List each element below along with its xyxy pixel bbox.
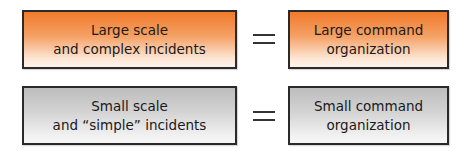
large-incidents-box: Large scale and complex incidents [22, 10, 237, 69]
equals-icon [253, 109, 275, 123]
equals-icon [253, 32, 275, 46]
small-command-line2: organization [327, 116, 411, 135]
large-command-line1: Large command [314, 21, 424, 40]
small-command-line1: Small command [314, 97, 423, 116]
large-command-box: Large command organization [288, 10, 449, 69]
large-incidents-line1: Large scale [91, 21, 168, 40]
large-incidents-line2: and complex incidents [53, 40, 205, 59]
small-incidents-line2: and “simple” incidents [53, 116, 207, 135]
small-incidents-line1: Small scale [91, 97, 168, 116]
small-command-box: Small command organization [288, 86, 449, 145]
large-command-line2: organization [327, 40, 411, 59]
small-incidents-box: Small scale and “simple” incidents [22, 86, 237, 145]
